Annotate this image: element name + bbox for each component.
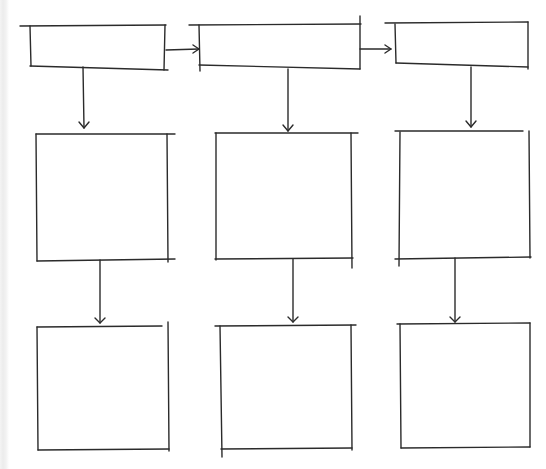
arrow-mid2-to-bot2 bbox=[288, 259, 298, 322]
arrow-top2-to-mid2 bbox=[283, 69, 293, 131]
arrow-top1-to-mid1 bbox=[79, 67, 89, 128]
node-bot-1 bbox=[37, 322, 169, 451]
node-bot-2 bbox=[215, 325, 356, 457]
node-bot-3 bbox=[397, 323, 530, 448]
arrow-top2-to-top3 bbox=[360, 45, 391, 53]
node-top-3 bbox=[385, 22, 528, 69]
node-mid-3 bbox=[395, 131, 531, 266]
node-mid-1 bbox=[36, 133, 175, 262]
arrow-mid3-to-bot3 bbox=[450, 258, 460, 322]
flowchart-diagram bbox=[0, 0, 546, 469]
arrow-top1-to-top2 bbox=[166, 45, 199, 53]
node-top-1 bbox=[20, 25, 168, 70]
arrow-top3-to-mid3 bbox=[466, 67, 476, 127]
node-top-2 bbox=[189, 16, 361, 71]
node-mid-2 bbox=[215, 133, 358, 268]
arrow-mid1-to-bot1 bbox=[95, 260, 105, 323]
